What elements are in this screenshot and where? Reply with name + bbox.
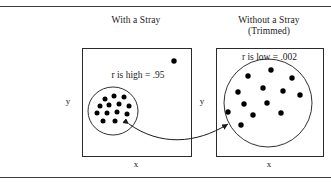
cluster-connector-arrow (129, 124, 228, 140)
scatter-points-left (95, 94, 132, 124)
scatter-points-right (225, 67, 302, 127)
figure-container: With a Stray Without a Stray (Trimmed) r… (0, 0, 331, 185)
outlier-point-left (171, 58, 176, 63)
scatter-drawing-layer (0, 0, 331, 185)
